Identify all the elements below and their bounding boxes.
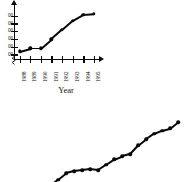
y-axis-arrow-icon (11, 0, 17, 5)
x-axis-tick (73, 56, 74, 63)
data-point (88, 167, 92, 171)
x-axis-tick (30, 56, 31, 63)
chart-top: 000000000000 198819891990199119921993199… (0, 0, 189, 100)
data-point (168, 127, 172, 131)
data-point (18, 50, 21, 53)
x-axis-tick (51, 56, 52, 63)
data-point (60, 28, 63, 31)
data-point (64, 171, 68, 175)
x-axis-tick-label: 1992 (64, 72, 70, 82)
x-axis-tick-label: 1988 (22, 72, 28, 82)
y-axis-tick-label: 00 (0, 28, 13, 33)
figure-canvas: 000000000000 198819891990199119921993199… (0, 0, 189, 182)
data-point (72, 169, 76, 173)
data-point (120, 154, 124, 158)
x-axis-tick-label: 1991 (54, 72, 60, 82)
data-point (160, 129, 164, 133)
data-point (28, 47, 31, 50)
data-point (104, 163, 108, 167)
x-axis-tick (62, 56, 63, 63)
data-point (71, 19, 74, 22)
data-point (92, 12, 95, 15)
x-axis-tick-label: 1990 (43, 72, 49, 82)
data-point (80, 168, 84, 172)
data-point (112, 158, 116, 162)
data-point (96, 168, 100, 172)
x-axis-tick-label: 1989 (32, 72, 38, 82)
x-axis-tick (20, 56, 21, 63)
chart-bottom (0, 100, 189, 182)
x-axis-tick (41, 56, 42, 63)
x-axis-tick (83, 56, 84, 63)
x-axis-title: Year (36, 86, 96, 95)
data-point (128, 152, 132, 156)
y-axis-tick-label: 00 (0, 52, 13, 57)
data-point (39, 47, 42, 50)
data-point (144, 137, 148, 141)
x-axis-tick (94, 56, 95, 63)
y-axis-tick-label: 00 (0, 36, 13, 41)
data-point (50, 37, 53, 40)
x-axis-arrow-icon (99, 56, 104, 62)
x-axis-tick-label: 1994 (86, 72, 92, 82)
data-point (176, 120, 180, 124)
data-point (82, 13, 85, 16)
data-point (56, 178, 60, 182)
x-axis-tick-label: 1993 (75, 72, 81, 82)
x-axis-tick-label: 1995 (96, 72, 102, 82)
data-point (152, 132, 156, 136)
x-axis-line (14, 59, 100, 60)
y-axis-tick-label: 00 (0, 13, 13, 18)
y-axis-tick-label: 00 (0, 44, 13, 49)
plot-area-top: 000000000000 198819891990199119921993199… (0, 0, 120, 100)
data-point (136, 144, 140, 148)
y-axis-tick-label: 00 (0, 21, 13, 26)
